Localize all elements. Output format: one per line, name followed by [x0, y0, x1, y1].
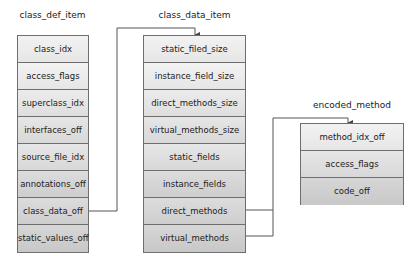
- field-superclass-idx: superclass_idx: [18, 90, 88, 117]
- field-virtual-methods-size: virtual_methods_size: [144, 117, 245, 144]
- field-class-idx: class_idx: [18, 36, 88, 63]
- field-code-off: code_off: [301, 178, 403, 205]
- encoded-method-title: encoded_method: [300, 100, 404, 110]
- class-def-item-title: class_def_item: [17, 10, 88, 20]
- field-interfaces-off: interfaces_off: [18, 117, 88, 144]
- field-source-file-idx: source_file_idx: [18, 144, 88, 171]
- class-def-item-box: class_idx access_flags superclass_idx in…: [17, 35, 89, 253]
- field-static-fields: static_fields: [144, 144, 245, 171]
- field-access-flags: access_flags: [301, 151, 403, 178]
- field-access-flags: access_flags: [18, 63, 88, 90]
- field-method-idx-off: method_idx_off: [301, 124, 403, 151]
- field-direct-methods-size: direct_methods_size: [144, 90, 245, 117]
- field-instance-field-size: instance_field_size: [144, 63, 245, 90]
- field-annotations-off: annotations_off: [18, 171, 88, 198]
- class-data-item-title: class_data_item: [143, 10, 246, 20]
- field-class-data-off: class_data_off: [18, 198, 88, 225]
- connector-virtual-methods-to-encoded-method: [245, 210, 273, 236]
- field-virtual-methods: virtual_methods: [144, 225, 245, 252]
- encoded-method-box: method_idx_off access_flags code_off: [300, 123, 404, 205]
- field-direct-methods: direct_methods: [144, 198, 245, 225]
- field-static-filed-size: static_filed_size: [144, 36, 245, 63]
- field-instance-fields: instance_fields: [144, 171, 245, 198]
- field-static-values-off: static_values_off: [18, 225, 88, 252]
- class-data-item-box: static_filed_size instance_field_size di…: [143, 35, 246, 253]
